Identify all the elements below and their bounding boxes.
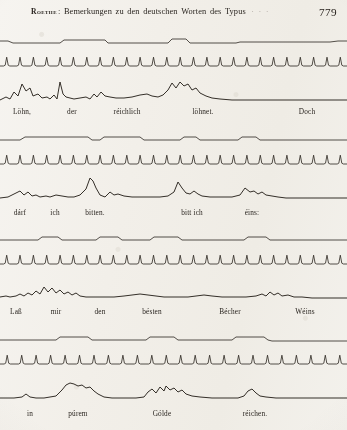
tuning-fork-time-trace	[0, 355, 347, 364]
intensity-step-trace	[0, 237, 347, 240]
intensity-step-trace	[0, 337, 347, 341]
word-label-row-3: LaßmirdenbéstenBécherWéins	[0, 307, 347, 320]
word-label-row-1: Löhn,derréichlichlöhnet.Doch	[0, 107, 347, 120]
word-label: mir	[51, 307, 62, 316]
kymograph-block-2	[0, 126, 347, 202]
head-word-3: den	[127, 7, 139, 16]
word-label: ich	[50, 208, 59, 217]
kymograph-block-1	[0, 28, 347, 104]
word-label: bitten.	[85, 208, 105, 217]
head-word-7: Typus	[225, 7, 246, 16]
head-word-2: zu	[116, 7, 124, 16]
kymograph-block-4	[0, 326, 347, 402]
running-head-author: Roethe	[31, 7, 57, 16]
tuning-fork-time-trace	[0, 57, 347, 66]
word-label: in	[27, 409, 33, 418]
word-label: réichen.	[243, 409, 268, 418]
word-label: dárf	[14, 208, 26, 217]
running-head-title: 1 BemerkungenzudendeutschenWortendesTypu…	[64, 7, 250, 16]
kymograph-block-3	[0, 226, 347, 302]
intensity-step-trace	[0, 39, 347, 43]
running-head-separator: :	[58, 7, 60, 16]
word-label: den	[95, 307, 106, 316]
word-label: Laß	[10, 307, 22, 316]
head-word-6: des	[210, 7, 221, 16]
word-label: Doch	[299, 107, 315, 116]
word-label: bitt ich	[181, 208, 203, 217]
head-word-5: Worten	[181, 7, 206, 16]
word-label: éins:	[245, 208, 260, 217]
speech-waveform-trace	[0, 383, 347, 398]
word-label: löhnet.	[192, 107, 213, 116]
intensity-step-trace	[0, 137, 347, 140]
word-label: bésten	[142, 307, 162, 316]
word-label: Löhn,	[13, 107, 31, 116]
running-head: Roethe: 1 BemerkungenzudendeutschenWorte…	[0, 7, 347, 23]
word-label: Bécher	[219, 307, 241, 316]
word-label-row-2: dárfichbitten.bitt ichéins:	[0, 208, 347, 221]
word-label: Gólde	[153, 409, 172, 418]
word-label-row-4: inpúremGólderéichen.	[0, 409, 347, 422]
word-label: réichlich	[114, 107, 141, 116]
word-label: der	[67, 107, 77, 116]
tuning-fork-time-trace	[0, 255, 347, 264]
speech-waveform-trace	[0, 287, 347, 298]
word-label: Wéins	[295, 307, 314, 316]
speech-waveform-trace	[0, 178, 347, 198]
page-number: 779	[319, 6, 337, 18]
typus-diacritic-marks: · · ·	[251, 8, 270, 16]
tuning-fork-time-trace	[0, 155, 347, 164]
head-word-4: deutschen	[143, 7, 177, 16]
head-word-1: Bemerkungen	[64, 7, 112, 16]
word-label: púrem	[68, 409, 87, 418]
speech-waveform-trace	[0, 82, 347, 100]
